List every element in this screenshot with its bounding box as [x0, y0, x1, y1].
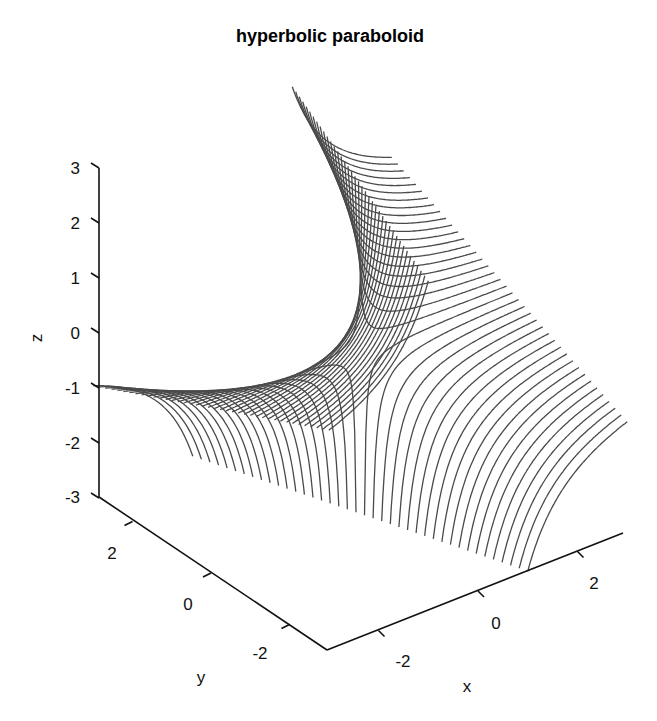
- x-tick-label: 0: [491, 614, 500, 633]
- z-tick-label: 0: [71, 324, 80, 343]
- mesh-curve: [450, 361, 573, 545]
- y-axis-line: [99, 497, 327, 650]
- tick-mark: [91, 218, 99, 223]
- mesh-curve: [468, 374, 585, 550]
- x-axis-line: [327, 533, 623, 650]
- tick-mark: [91, 438, 99, 443]
- tick-mark: [91, 328, 99, 333]
- mesh-curve: [105, 388, 210, 463]
- y-tick-label: 0: [183, 595, 192, 614]
- chart-title: hyperbolic paraboloid: [236, 26, 424, 46]
- tick-mark: [379, 631, 385, 637]
- y-axis-label: y: [197, 668, 206, 687]
- z-tick-label: 3: [71, 159, 80, 178]
- mesh-curve: [329, 281, 429, 431]
- mesh-curve: [313, 117, 428, 201]
- hyperbolic-paraboloid-plot: hyperbolic paraboloid 3 2 1 0 -1 -2 -3 z…: [0, 0, 657, 721]
- tick-mark: [91, 273, 99, 278]
- tick-mark: [578, 552, 584, 558]
- y-tick-labels: 2 0 -2: [107, 544, 267, 663]
- x-axis-label: x: [463, 677, 472, 696]
- mesh-curve: [519, 415, 621, 568]
- z-tick-labels: 3 2 1 0 -1 -2 -3: [65, 159, 80, 507]
- surface-mesh: [93, 87, 627, 572]
- z-tick-label: -2: [65, 434, 80, 453]
- y-tick-label: -2: [252, 644, 267, 663]
- x-tick-labels: -2 0 2: [395, 574, 598, 671]
- mesh-curve: [292, 87, 392, 158]
- tick-mark: [125, 522, 133, 526]
- tick-mark: [91, 493, 99, 498]
- tick-mark: [478, 591, 484, 597]
- z-tick-label: 1: [71, 269, 80, 288]
- tick-mark: [282, 625, 290, 629]
- mesh-curve: [324, 132, 447, 224]
- mesh-curve: [359, 181, 507, 328]
- tick-mark: [203, 573, 211, 577]
- tick-mark: [91, 163, 99, 168]
- z-tick-label: 2: [71, 214, 80, 233]
- z-tick-label: -1: [65, 379, 80, 398]
- mesh-curve: [296, 92, 398, 165]
- mesh-curve: [528, 422, 628, 572]
- z-tick-label: -3: [65, 488, 80, 507]
- mesh-curve: [299, 256, 411, 425]
- y-tick-label: 2: [107, 544, 116, 563]
- x-tick-label: -2: [395, 652, 410, 671]
- x-tick-label: 2: [589, 574, 598, 593]
- z-axis-label: z: [27, 334, 46, 343]
